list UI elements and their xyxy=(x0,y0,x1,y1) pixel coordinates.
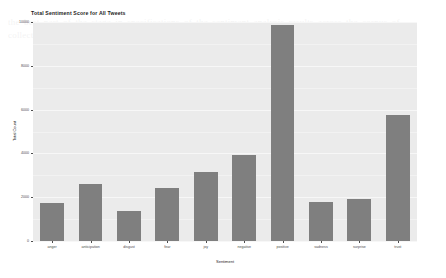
x-tick xyxy=(283,241,284,243)
bar-trust xyxy=(386,115,410,241)
bar-positive xyxy=(271,25,295,241)
y-axis: 0200040006000800010000 xyxy=(0,22,33,241)
x-tick-label-joy: joy xyxy=(203,245,208,249)
x-tick xyxy=(129,241,130,243)
y-tick-label: 0 xyxy=(27,239,29,243)
y-tick-label: 6000 xyxy=(21,108,29,112)
x-tick-label-anger: anger xyxy=(48,245,57,249)
x-tick xyxy=(321,241,322,243)
y-tick-label: 2000 xyxy=(21,195,29,199)
y-tick-label: 10000 xyxy=(19,20,29,24)
y-tick xyxy=(31,110,33,111)
x-tick xyxy=(206,241,207,243)
x-tick-label-fear: fear xyxy=(164,245,170,249)
y-axis-title: Total Count xyxy=(12,121,17,141)
y-tick-label: 8000 xyxy=(21,64,29,68)
bar-series xyxy=(33,22,417,241)
x-tick xyxy=(359,241,360,243)
bar-negative xyxy=(232,155,256,242)
x-axis: angeranticipationdisgustfearjoynegativep… xyxy=(33,241,417,255)
y-tick xyxy=(31,22,33,23)
x-tick xyxy=(52,241,53,243)
bar-surprise xyxy=(347,199,371,241)
x-tick-label-sadness: sadness xyxy=(314,245,327,249)
x-tick xyxy=(91,241,92,243)
bar-disgust xyxy=(117,211,141,241)
sentiment-bar-chart: the best part of the stage in specificat… xyxy=(0,0,446,278)
x-tick xyxy=(398,241,399,243)
page-title: Total Sentiment Score for All Tweets xyxy=(31,10,126,16)
bar-anticipation xyxy=(79,184,103,241)
x-tick-label-anticipation: anticipation xyxy=(82,245,100,249)
y-tick xyxy=(31,197,33,198)
x-tick-label-trust: trust xyxy=(394,245,401,249)
x-tick-label-disgust: disgust xyxy=(123,245,134,249)
x-tick-label-surprise: surprise xyxy=(353,245,366,249)
x-tick-label-positive: positive xyxy=(277,245,289,249)
x-axis-title: Sentiment xyxy=(216,259,234,264)
y-tick xyxy=(31,153,33,154)
x-tick xyxy=(244,241,245,243)
bar-joy xyxy=(194,172,218,241)
x-tick-label-negative: negative xyxy=(237,245,251,249)
bar-anger xyxy=(40,203,64,241)
y-tick xyxy=(31,66,33,67)
bar-sadness xyxy=(309,202,333,241)
x-tick xyxy=(167,241,168,243)
y-tick-label: 4000 xyxy=(21,151,29,155)
bar-fear xyxy=(155,188,179,241)
plot-panel xyxy=(33,22,417,241)
